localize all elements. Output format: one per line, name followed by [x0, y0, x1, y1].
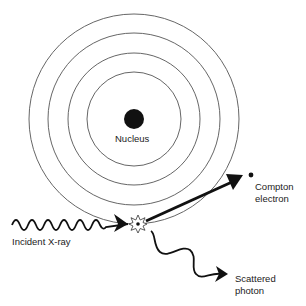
incident-xray-label: Incident X-ray	[12, 236, 71, 248]
compton-electron-label-line2: electron	[255, 193, 289, 205]
scattered-photon-label-line1: Scattered	[235, 273, 276, 285]
nucleus-label: Nucleus	[115, 133, 149, 145]
diagram-canvas	[0, 0, 306, 306]
nucleus-icon	[124, 109, 144, 129]
scattered-photon-wave	[151, 231, 222, 277]
electron-dot-icon	[249, 173, 254, 178]
scattered-photon-label-line2: photon	[235, 285, 264, 297]
incident-arrowhead-icon	[114, 214, 128, 232]
starburst-icon	[129, 215, 147, 233]
compton-electron-label-line1: Compton	[255, 181, 294, 193]
compton-diagram: Nucleus Incident X-ray Compton electron …	[0, 0, 306, 306]
